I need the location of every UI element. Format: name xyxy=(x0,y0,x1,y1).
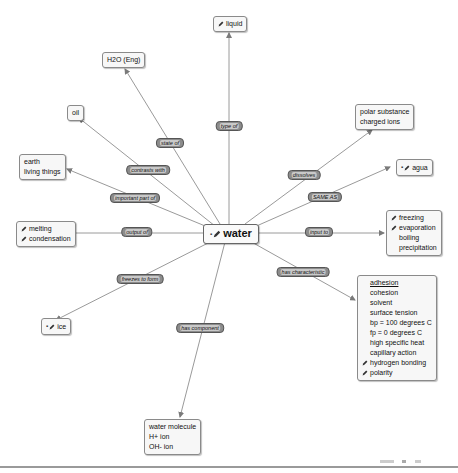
link-output-of[interactable]: output of xyxy=(121,227,152,237)
link-label: state of xyxy=(160,140,180,146)
link-contrasts-with[interactable]: contrasts with xyxy=(126,165,170,175)
pencil-icon[interactable] xyxy=(391,215,397,221)
pencil-icon[interactable] xyxy=(49,324,55,330)
concept-label: agua xyxy=(412,164,428,171)
concept-label: oil xyxy=(72,109,79,116)
concept-label: precipitation xyxy=(391,243,437,253)
link-label: SAME AS xyxy=(312,194,338,200)
link-label: important part of xyxy=(114,195,156,201)
link-label: has characteristic xyxy=(281,269,326,275)
concept-label: capillary action xyxy=(362,348,432,358)
concept-label: earth xyxy=(24,157,61,167)
dash-icon[interactable]: ▪ xyxy=(210,228,212,241)
concept-label: adhesion xyxy=(362,278,432,288)
concept-label: evaporation xyxy=(399,224,436,231)
concept-polar-substance[interactable]: polar substance charged ions xyxy=(355,104,414,130)
link-state-of[interactable]: state of xyxy=(156,138,184,148)
concept-label: ice xyxy=(57,323,66,330)
concept-label: surface tension xyxy=(362,308,432,318)
concept-label: hydrogen bonding xyxy=(370,359,426,366)
link-freezes-to-form[interactable]: freezes to form xyxy=(117,274,164,284)
pencil-icon[interactable] xyxy=(362,370,368,376)
concept-melting-condensation[interactable]: melting condensation xyxy=(16,221,76,247)
footer-mark xyxy=(380,460,394,463)
concept-label: freezing xyxy=(399,214,424,221)
concept-label: cohesion xyxy=(362,288,432,298)
pencil-icon[interactable] xyxy=(404,165,410,171)
concept-h2o-eng[interactable]: H2O (Eng) xyxy=(102,52,145,68)
link-label: contrasts with xyxy=(130,167,166,173)
link-label: input to xyxy=(309,229,329,235)
link-dissolves[interactable]: dissolves xyxy=(288,170,321,180)
dash-icon[interactable]: ▪ xyxy=(401,162,403,172)
link-label: dissolves xyxy=(292,172,317,178)
link-has-characteristic[interactable]: has characteristic xyxy=(277,267,330,277)
pencil-icon[interactable] xyxy=(218,21,224,27)
concept-map-canvas: ▪water liquid H2O (Eng) oil earth living… xyxy=(0,0,458,473)
link-type-of[interactable]: type of xyxy=(216,121,243,131)
concept-phase-changes[interactable]: freezing evaporation boiling precipitati… xyxy=(386,210,442,256)
pencil-icon[interactable] xyxy=(213,230,221,238)
bottom-divider xyxy=(0,466,458,468)
concept-label: high specific heat xyxy=(362,338,432,348)
link-label: has component xyxy=(180,325,220,331)
concept-label: melting xyxy=(29,225,52,232)
concept-properties[interactable]: adhesion cohesion solvent surface tensio… xyxy=(357,275,437,381)
link-important-part-of[interactable]: important part of xyxy=(110,193,160,203)
link-has-component[interactable]: has component xyxy=(176,323,224,333)
link-same-as[interactable]: SAME AS xyxy=(308,192,342,202)
pencil-icon[interactable] xyxy=(362,360,368,366)
pencil-icon[interactable] xyxy=(391,225,397,231)
link-label: output of xyxy=(125,229,148,235)
dash-icon[interactable]: ▪ xyxy=(46,321,48,331)
pencil-icon[interactable] xyxy=(21,226,27,232)
concept-label: polarity xyxy=(370,369,393,376)
link-label: freezes to form xyxy=(121,276,160,282)
concept-label: liquid xyxy=(226,20,242,27)
concept-label: OH- ion xyxy=(149,442,196,452)
concept-earth-living-things[interactable]: earth living things xyxy=(19,154,66,180)
concept-water-molecule[interactable]: water molecule H+ ion OH- ion xyxy=(144,419,201,455)
concept-label: solvent xyxy=(362,298,432,308)
concept-label: fp = 0 degrees C xyxy=(362,328,432,338)
concept-liquid[interactable]: liquid xyxy=(213,16,247,32)
pencil-icon[interactable] xyxy=(21,236,27,242)
concept-oil[interactable]: oil xyxy=(67,105,84,121)
concept-ice[interactable]: ▪ice xyxy=(41,318,71,335)
concept-label: H2O (Eng) xyxy=(107,56,140,63)
concept-label: water molecule xyxy=(149,422,196,432)
concept-label: polar substance xyxy=(360,107,409,117)
concept-water[interactable]: ▪water xyxy=(203,224,259,244)
concept-label: water xyxy=(223,227,252,239)
concept-label: boiling xyxy=(391,233,437,243)
concept-label: condensation xyxy=(29,235,71,242)
concept-agua[interactable]: ▪agua xyxy=(396,159,433,176)
concept-label: charged ions xyxy=(360,117,409,127)
concept-label: bp = 100 degrees C xyxy=(362,318,432,328)
link-label: type of xyxy=(220,123,239,129)
footer-mark xyxy=(402,460,406,463)
link-input-to[interactable]: input to xyxy=(305,227,333,237)
footer-mark xyxy=(415,460,421,463)
concept-label: H+ ion xyxy=(149,432,196,442)
concept-label: living things xyxy=(24,167,61,177)
